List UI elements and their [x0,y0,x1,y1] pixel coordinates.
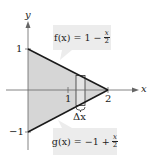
g-fraction: x 2 [112,134,118,149]
delta-x-label: Δx [73,112,86,122]
f-fraction: x 2 [103,30,109,45]
y-axis-arrow-icon [26,21,31,28]
g-equation-lhs: g(x) = −1 + [52,136,110,147]
x-axis-label: x [141,84,147,94]
g-fraction-denominator: 2 [112,142,118,149]
y-tick-label-1: 1 [16,44,22,54]
y-tick-label-neg1: −1 [9,127,24,137]
g-callout-pointer [58,120,72,128]
f-callout-pointer [60,50,72,60]
f-equation-lhs: f(x) = 1 − [54,32,101,43]
x-axis-arrow-icon [132,88,139,93]
delta-x-text: Δx [73,111,86,122]
x-tick-label-2: 2 [105,94,111,104]
y-axis-label: y [25,10,31,20]
x-tick-label-1: 1 [65,94,71,104]
g-label-box: g(x) = −1 + x 2 [53,128,117,155]
f-fraction-denominator: 2 [103,38,109,45]
f-label-box: f(x) = 1 − x 2 [53,25,111,50]
representative-rectangle [76,76,85,106]
